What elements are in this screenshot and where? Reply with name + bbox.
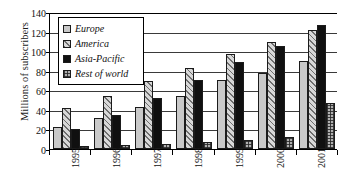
bar-group: [296, 13, 337, 149]
legend-item: America: [63, 36, 139, 51]
x-axis-tick-label: 1996: [111, 148, 122, 168]
x-axis-label-cell: 2000: [255, 156, 296, 188]
y-axis-tick-label: 40: [36, 105, 46, 116]
legend-item: Rest of world: [63, 66, 139, 81]
x-axis-tick-mark: [255, 150, 256, 155]
bar-group: [214, 13, 255, 149]
bar: [185, 68, 194, 149]
y-axis-tick-label: 140: [31, 8, 46, 19]
bar: [326, 103, 335, 149]
bar: [226, 54, 235, 149]
legend-swatch-icon: [63, 55, 71, 63]
legend-item: Europe: [63, 21, 139, 36]
legend-label: America: [75, 38, 109, 49]
legend: EuropeAmericaAsia-PacificRest of world: [58, 17, 144, 85]
legend-label: Asia-Pacific: [75, 53, 124, 64]
bar: [71, 129, 80, 149]
bar: [317, 25, 326, 149]
bar: [62, 108, 71, 149]
legend-label: Europe: [75, 23, 104, 34]
x-axis-labels: 1995199619971998199920002001: [49, 156, 337, 188]
bar: [194, 80, 203, 149]
bar: [176, 96, 185, 149]
y-axis-title: Millions of subscribers: [19, 2, 30, 142]
legend-swatch-icon: [63, 70, 71, 78]
bar-group: [255, 13, 296, 149]
bar: [112, 115, 121, 149]
x-axis-tick-mark: [90, 150, 91, 155]
x-axis-tick-label: 1999: [234, 148, 245, 168]
legend-item: Asia-Pacific: [63, 51, 139, 66]
y-axis-tick-label: 20: [36, 125, 46, 136]
bar-chart: Millions of subscribers 0204060801001201…: [0, 0, 354, 188]
x-axis-tick-mark: [337, 150, 338, 155]
bar-group: [173, 13, 214, 149]
legend-swatch-icon: [63, 25, 71, 33]
x-axis-tick-mark: [214, 150, 215, 155]
bar: [144, 81, 153, 150]
legend-label: Rest of world: [75, 68, 128, 79]
bar: [258, 73, 267, 149]
y-axis-tick-label: 80: [36, 66, 46, 77]
x-axis-tick-mark: [296, 150, 297, 155]
bar: [103, 96, 112, 149]
x-axis-label-cell: 1996: [90, 156, 131, 188]
bar: [94, 118, 103, 149]
bar: [135, 107, 144, 149]
x-axis-label-cell: 1998: [172, 156, 213, 188]
x-axis-label-cell: 1997: [131, 156, 172, 188]
bar: [308, 30, 317, 149]
x-axis-label-cell: 1999: [214, 156, 255, 188]
bar: [267, 42, 276, 149]
bar: [153, 98, 162, 149]
bar: [217, 80, 226, 149]
x-axis-tick-label: 2001: [316, 148, 327, 168]
x-axis-tick-label: 1998: [193, 148, 204, 168]
bar: [235, 62, 244, 149]
bar: [53, 127, 62, 150]
y-axis-tick-label: 120: [31, 27, 46, 38]
bar: [299, 61, 308, 149]
x-axis-tick-label: 2000: [275, 148, 286, 168]
x-axis-label-cell: 2001: [296, 156, 337, 188]
x-axis-tick-mark: [49, 150, 50, 155]
x-axis-tick-label: 1997: [152, 148, 163, 168]
x-axis-tick-mark: [131, 150, 132, 155]
bar: [276, 46, 285, 149]
y-axis-tick-label: 60: [36, 86, 46, 97]
y-axis-tick-label: 100: [31, 47, 46, 58]
legend-swatch-icon: [63, 40, 71, 48]
x-axis-tick-mark: [172, 150, 173, 155]
x-axis-label-cell: 1995: [49, 156, 90, 188]
x-axis-tick-label: 1995: [70, 148, 81, 168]
